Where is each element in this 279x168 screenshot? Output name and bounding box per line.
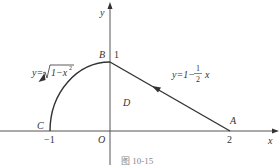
x-tick-neg1: −1 (44, 134, 55, 145)
region-d-label: D (122, 97, 131, 108)
svg-text:1: 1 (196, 64, 200, 73)
line-equation: y=1− 1 2 x (171, 64, 210, 84)
svg-text:y=1−: y=1− (171, 69, 195, 80)
svg-text:2: 2 (69, 65, 72, 71)
y-axis-arrow-icon (108, 2, 113, 9)
svg-text:1−x: 1−x (51, 67, 68, 78)
svg-text:y=: y= (31, 67, 43, 78)
segment-direction-arrow-icon (152, 86, 161, 93)
svg-text:x: x (204, 69, 210, 80)
x-axis-arrow-icon (272, 129, 279, 134)
svg-text:2: 2 (196, 75, 200, 84)
point-b-label: B (99, 49, 105, 60)
point-a-label: A (229, 115, 237, 126)
figure-canvas: y x O B 1 A 2 C −1 D y= 1−x 2 y=1− 1 2 x… (0, 0, 279, 168)
y-tick-1: 1 (114, 49, 119, 60)
point-c-label: C (37, 120, 44, 131)
x-tick-2: 2 (227, 134, 232, 145)
origin-label: O (98, 134, 105, 145)
y-axis-label: y (99, 7, 105, 18)
y-axis (108, 2, 113, 165)
figure-caption: 图 10-15 (121, 156, 154, 166)
arc-equation: y= 1−x 2 (31, 65, 74, 78)
x-axis-label: x (267, 135, 273, 146)
